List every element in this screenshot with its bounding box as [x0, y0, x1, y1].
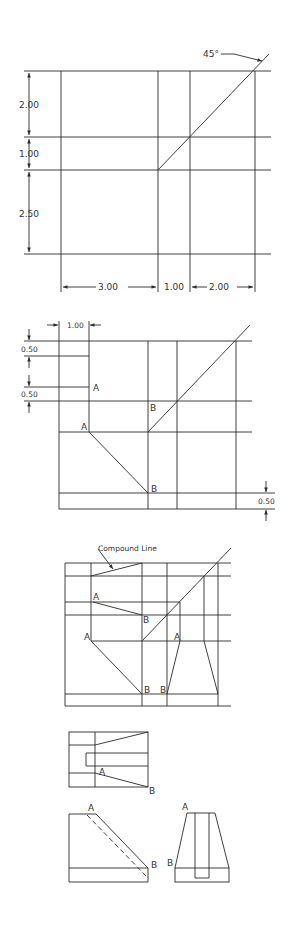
dim-label: 3.00	[98, 282, 118, 292]
point-label: B	[151, 860, 157, 870]
figure-4-top-view	[69, 732, 148, 787]
point-label: B	[160, 685, 166, 695]
dim-label: 2.00	[19, 100, 39, 110]
dim-label: 2.50	[19, 209, 39, 219]
figure-5-front-view	[69, 814, 148, 882]
point-label: B	[167, 858, 173, 868]
point-label: B	[149, 786, 155, 796]
point-label: A	[99, 767, 106, 777]
technical-drawing-sheet: 45° 2.00 1.00 2.50 3.00 1.00 2.00 1.00 0…	[0, 0, 281, 925]
dim-label: 2.00	[209, 282, 229, 292]
angle-label: 45°	[203, 49, 219, 59]
point-label: A	[93, 383, 100, 393]
point-label: A	[182, 802, 189, 812]
point-label: A	[88, 803, 95, 813]
dim-label: 1.00	[19, 149, 39, 159]
point-label: B	[151, 484, 157, 494]
callout-label: Compound Line	[98, 544, 157, 553]
figure-2-projection	[24, 321, 275, 521]
dim-label: 0.50	[21, 345, 38, 354]
point-label: B	[144, 685, 150, 695]
figure-1-construction-grid	[24, 54, 271, 292]
dim-label: 1.00	[67, 321, 84, 330]
point-label: A	[174, 632, 181, 642]
figure-6-side-view	[175, 813, 229, 882]
point-label: A	[93, 592, 100, 602]
dim-label: 0.50	[258, 497, 275, 506]
point-label: A	[84, 632, 91, 642]
point-label: B	[150, 403, 156, 413]
dim-label: 0.50	[21, 390, 38, 399]
point-label: B	[143, 615, 149, 625]
figure-3-compound-line-projection	[65, 548, 231, 706]
dim-label: 1.00	[164, 282, 184, 292]
point-label: A	[81, 422, 88, 432]
